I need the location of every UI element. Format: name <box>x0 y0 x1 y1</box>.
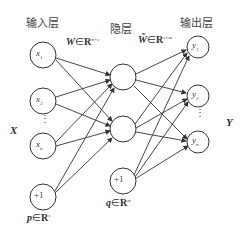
input-layer-title: 输入层 <box>26 14 59 30</box>
output-ellipsis: ⋮ <box>195 107 205 118</box>
node-label-hidden-bias: +1 <box>114 174 124 184</box>
input-node-x2 <box>30 88 56 114</box>
node-label-xn: xn <box>36 139 43 151</box>
bias-q-label: q∈Rm <box>106 197 131 208</box>
hidden-node-1 <box>110 64 136 90</box>
node-label-y2: y2 <box>192 89 199 101</box>
node-label-y1: y1 <box>192 40 199 52</box>
hidden-node-2 <box>110 116 136 142</box>
input-node-x1 <box>30 42 56 68</box>
node-label-x2: x2 <box>36 94 43 106</box>
node-label-input-bias: +1 <box>34 190 44 200</box>
output-side-label: Y <box>226 116 233 128</box>
node-label-yn: yn <box>192 135 199 147</box>
node-label-x1: x1 <box>36 48 43 60</box>
output-layer-title: 输出层 <box>180 14 213 30</box>
weight-W-label: W∈Rn×s <box>66 36 99 47</box>
input-node-xn <box>30 133 56 159</box>
hidden-layer-title: 隐层 <box>110 20 132 36</box>
bias-p-label: p∈Rs <box>27 212 50 223</box>
weight-W-tilde-label: W̃∈Rs×m <box>138 34 172 45</box>
input-ellipsis: ⋮ <box>40 113 50 124</box>
input-side-label: X <box>10 124 17 136</box>
